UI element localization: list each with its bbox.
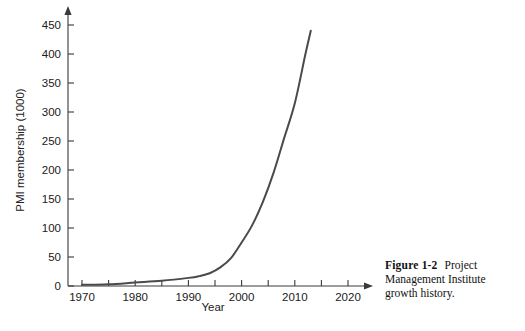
figure-container: 050100150200250300350400450 197019801990… bbox=[0, 0, 525, 331]
x-tick-label: 2020 bbox=[335, 291, 361, 303]
x-tick-label: 1970 bbox=[69, 291, 95, 303]
y-axis-title: PMI membership (1000) bbox=[14, 88, 26, 212]
y-tick-label: 200 bbox=[42, 164, 61, 176]
y-tick-label: 400 bbox=[42, 48, 61, 60]
x-tick-label: 2000 bbox=[229, 291, 255, 303]
y-tick-label: 100 bbox=[42, 222, 61, 234]
y-tick-label: 0 bbox=[55, 280, 61, 292]
x-tick-label: 2010 bbox=[282, 291, 308, 303]
y-tick-label: 350 bbox=[42, 77, 61, 89]
membership-growth-curve bbox=[82, 31, 311, 285]
y-tick-label: 50 bbox=[48, 251, 61, 263]
y-tick-label: 150 bbox=[42, 193, 61, 205]
figure-caption: Figure 1-2Project Management Institute g… bbox=[385, 258, 521, 301]
y-tick-label: 450 bbox=[42, 19, 61, 31]
x-axis-arrow-icon bbox=[364, 282, 373, 289]
figure-number-label: Figure 1-2 bbox=[385, 259, 438, 271]
y-tick-label: 250 bbox=[42, 135, 61, 147]
x-tick-label: 1990 bbox=[176, 291, 202, 303]
y-tick-label: 300 bbox=[42, 106, 61, 118]
y-axis-ticks: 050100150200250300350400450 bbox=[42, 19, 74, 292]
x-tick-label: 1980 bbox=[122, 291, 148, 303]
x-axis-title: Year bbox=[201, 301, 224, 313]
y-axis-arrow-icon bbox=[64, 6, 71, 15]
